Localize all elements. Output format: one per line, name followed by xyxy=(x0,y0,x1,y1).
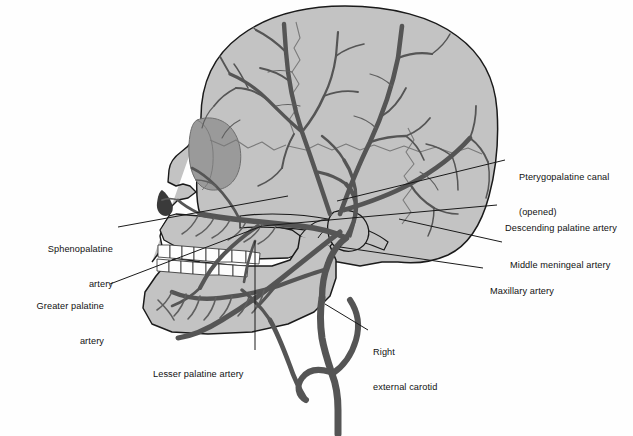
label-line: Lesser palatine artery xyxy=(153,369,244,381)
label-line: Maxillary artery xyxy=(490,286,554,298)
label-line: Right xyxy=(373,347,437,359)
lesser-palatine-artery-label: Lesser palatine artery xyxy=(153,346,244,404)
label-line: artery xyxy=(12,336,104,348)
figure-canvas: Pterygopalatine canal (opened) Descendin… xyxy=(0,0,633,436)
label-line: Greater palatine xyxy=(12,301,104,313)
leader-right-external-carotid xyxy=(325,304,368,330)
label-line: Descending palatine artery xyxy=(505,223,617,235)
label-line: Sphenopalatine xyxy=(38,244,113,256)
label-line: external carotid xyxy=(373,382,437,394)
label-line: Pterygopalatine canal xyxy=(519,172,609,184)
greater-palatine-artery-label: Greater palatine artery xyxy=(12,278,104,370)
right-external-carotid-label: Right external carotid xyxy=(373,324,437,416)
maxillary-artery-label: Maxillary artery xyxy=(490,263,554,321)
